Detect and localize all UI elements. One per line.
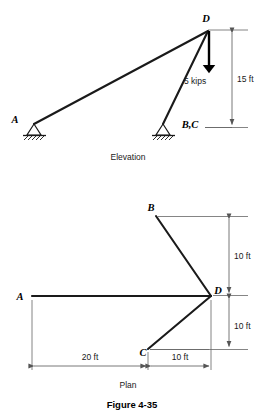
support-a — [23, 124, 46, 140]
dimension-c-to-d-10-ft: 10 ft — [151, 352, 209, 366]
dimension-d-to-c-10-ft: 10 ft — [229, 299, 251, 347]
engineering-figure: A B,C D 5 kips 15 ft Elevation — [0, 0, 275, 413]
elevation-node-label-bc: B,C — [181, 119, 200, 130]
plan-view: A B C D 10 ft 10 ft — [15, 202, 251, 390]
plan-member-c-d — [148, 296, 211, 349]
load-label-5-kips: 5 kips — [184, 76, 206, 86]
elevation-node-label-d: D — [201, 13, 210, 24]
dimension-label-15-ft: 15 ft — [237, 74, 254, 84]
plan-node-label-a: A — [15, 291, 23, 302]
dimension-label-d-to-c: 10 ft — [234, 321, 251, 331]
elevation-node-label-a: A — [10, 114, 18, 125]
dimension-label-c-to-d: 10 ft — [172, 352, 189, 362]
dimension-label-a-to-c: 20 ft — [82, 352, 99, 362]
figure-caption: Figure 4-35 — [107, 399, 158, 410]
dimension-b-to-d-10-ft: 10 ft — [229, 219, 251, 293]
plan-node-label-c: C — [139, 347, 147, 358]
dimension-15-ft: 15 ft — [205, 30, 254, 128]
dimension-a-to-c-20-ft: 20 ft — [34, 352, 146, 366]
dimension-label-b-to-d: 10 ft — [234, 251, 251, 261]
support-bc — [152, 124, 175, 140]
plan-node-label-d: D — [213, 285, 222, 296]
member-a-d — [34, 31, 208, 124]
plan-node-label-b: B — [146, 202, 154, 213]
elevation-view: A B,C D 5 kips 15 ft Elevation — [10, 13, 254, 162]
plan-caption: Plan — [119, 380, 136, 390]
figure-container: A B,C D 5 kips 15 ft Elevation — [0, 0, 275, 413]
elevation-caption: Elevation — [111, 152, 146, 162]
plan-member-b-d — [156, 216, 211, 296]
